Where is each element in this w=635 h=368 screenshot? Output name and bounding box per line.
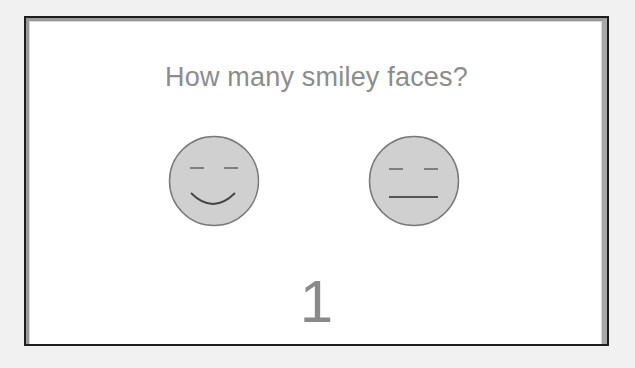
answer-number: 1 bbox=[26, 272, 607, 332]
smiley-face-icon bbox=[168, 135, 260, 227]
question-text: How many smiley faces? bbox=[26, 62, 607, 93]
neutral-face-icon bbox=[368, 135, 460, 227]
slide-card: How many smiley faces? 1 bbox=[24, 16, 609, 346]
